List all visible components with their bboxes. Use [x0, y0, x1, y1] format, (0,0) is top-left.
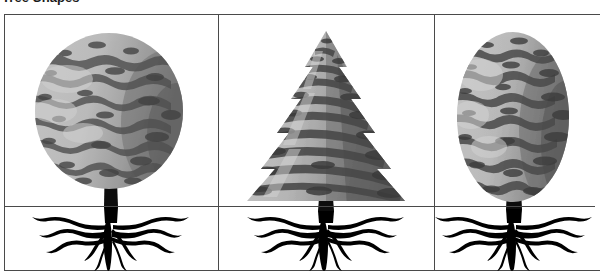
oval-tree-roots	[435, 15, 595, 271]
ground-line	[5, 206, 595, 207]
root-system-2	[247, 211, 404, 271]
figure-title: Tree Shapes	[2, 0, 80, 5]
panel-conifer-tree: Conical conifer tree	[219, 15, 434, 271]
conifer-tree-roots	[219, 15, 434, 271]
panel-round-tree: Round deciduous tree	[5, 15, 218, 271]
round-tree-crown	[21, 33, 209, 195]
panel-oval-tree: Oval deciduous tree	[435, 15, 595, 271]
round-tree-illustration	[5, 15, 218, 271]
root-system-3	[435, 209, 592, 271]
